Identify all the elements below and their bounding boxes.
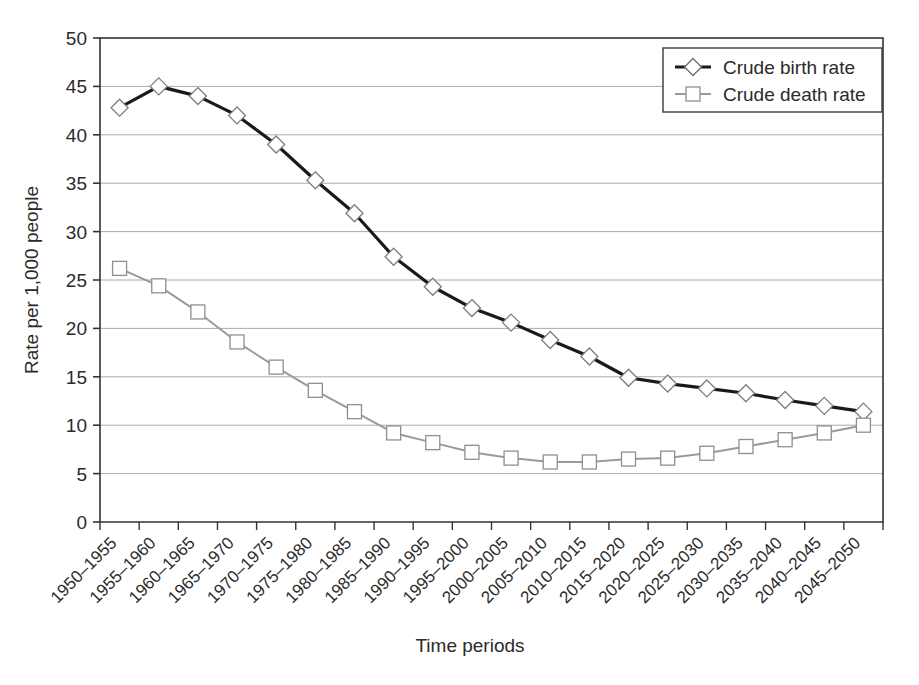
data-point-marker: [113, 261, 127, 275]
y-tick-label: 35: [66, 173, 87, 194]
data-point-marker: [387, 426, 401, 440]
data-point-marker: [817, 426, 831, 440]
chart-page: 05101520253035404550 1950–19551955–19601…: [0, 0, 919, 685]
y-tick-label: 0: [76, 512, 87, 533]
data-point-marker: [661, 451, 675, 465]
data-point-marker: [739, 439, 753, 453]
x-axis-ticks: [100, 522, 883, 530]
data-point-marker: [778, 433, 792, 447]
line-chart: 05101520253035404550 1950–19551955–19601…: [0, 0, 919, 685]
y-tick-label: 30: [66, 222, 87, 243]
y-tick-label: 45: [66, 76, 87, 97]
data-point-marker: [543, 455, 557, 469]
y-tick-label: 5: [76, 464, 87, 485]
data-point-marker: [269, 360, 283, 374]
y-tick-label: 10: [66, 415, 87, 436]
y-tick-label: 40: [66, 125, 87, 146]
y-tick-label: 15: [66, 367, 87, 388]
data-point-marker: [504, 451, 518, 465]
data-point-marker: [230, 335, 244, 349]
y-axis-title: Rate per 1,000 people: [21, 186, 42, 374]
data-point-marker: [465, 445, 479, 459]
chart-legend: Crude birth rateCrude death rate: [663, 48, 882, 112]
x-axis-title: Time periods: [415, 635, 524, 656]
data-point-marker: [152, 279, 166, 293]
legend-label: Crude birth rate: [723, 57, 855, 78]
data-point-marker: [308, 383, 322, 397]
y-tick-label: 50: [66, 28, 87, 49]
legend-square-icon: [686, 87, 700, 101]
legend-label: Crude death rate: [723, 84, 866, 105]
y-tick-label: 25: [66, 270, 87, 291]
data-point-marker: [426, 436, 440, 450]
data-point-marker: [856, 418, 870, 432]
y-tick-label: 20: [66, 318, 87, 339]
data-point-marker: [347, 405, 361, 419]
data-point-marker: [622, 452, 636, 466]
data-point-marker: [582, 455, 596, 469]
data-point-marker: [191, 305, 205, 319]
data-point-marker: [700, 446, 714, 460]
